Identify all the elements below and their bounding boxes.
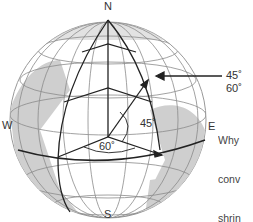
angle-latitude: 45˚: [140, 118, 156, 129]
label-south: S: [104, 209, 111, 220]
label-north: N: [104, 1, 112, 12]
side-line: shrin: [218, 212, 253, 222]
side-text: Why conv shrin miles pole, value The a s…: [218, 108, 253, 222]
side-line: conv: [218, 173, 253, 186]
label-east: E: [208, 121, 215, 132]
label-west: W: [2, 120, 12, 131]
callout-lon: 60˚: [226, 83, 242, 94]
globe-diagram: [0, 0, 253, 222]
callout-lat: 45˚: [226, 70, 242, 81]
angle-longitude: 60˚: [99, 141, 115, 152]
side-line: Why: [218, 134, 253, 147]
